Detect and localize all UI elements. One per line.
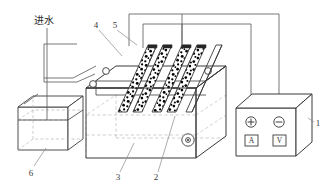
voltmeter-display: V — [273, 135, 286, 146]
ammeter-display: A — [245, 135, 258, 146]
inlet-port-upper — [103, 68, 110, 75]
label-3-reactor-tank: 3 — [116, 172, 121, 182]
power-supply-unit: A V — [236, 94, 312, 156]
electrochemical-reactor-diagram: A V 进水 4 5 6 3 2 1 — [0, 0, 324, 190]
label-6-feed-tank: 6 — [29, 168, 34, 178]
inlet-port-lower — [90, 81, 97, 88]
terminal-positive[interactable] — [246, 117, 256, 127]
inlet-label: 进水 — [34, 15, 54, 26]
voltmeter-label: V — [277, 136, 283, 145]
label-4-electrode-front: 4 — [94, 20, 99, 30]
label-2-partition: 2 — [154, 172, 159, 182]
diagram-canvas: A V 进水 4 5 6 3 2 1 — [0, 0, 324, 190]
label-1-power-supply: 1 — [316, 118, 321, 128]
label-5-electrode-rear: 5 — [113, 20, 118, 30]
terminal-negative[interactable] — [274, 117, 284, 127]
outlet-drain-port — [182, 134, 194, 146]
feed-water-tank — [18, 94, 83, 150]
ammeter-label: A — [249, 136, 255, 145]
